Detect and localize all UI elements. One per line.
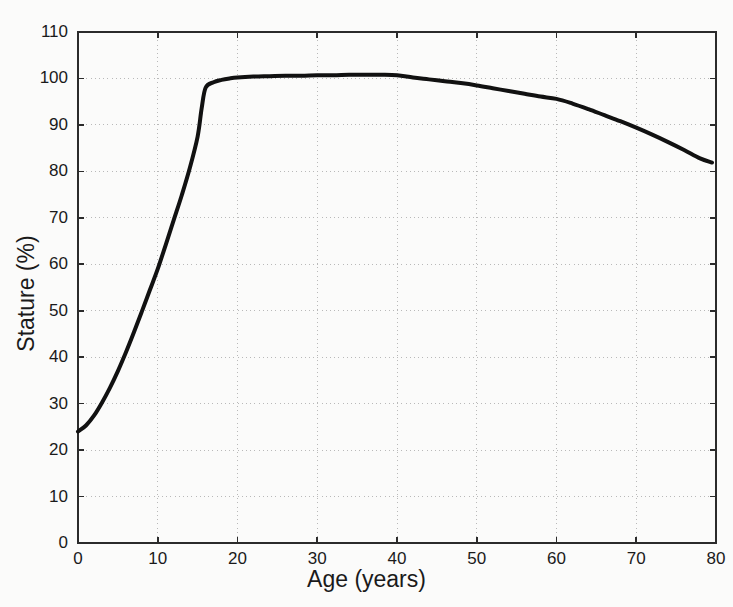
axes-frame — [78, 32, 716, 543]
tick-marks-group — [78, 32, 716, 543]
y-axis-title: Stature (%) — [13, 164, 40, 424]
gridlines-group — [78, 32, 716, 543]
y-tick-label: 10 — [0, 487, 68, 507]
figure-page: 0102030405060708090100110 01020304050607… — [0, 0, 733, 607]
x-axis-title: Age (years) — [0, 566, 733, 593]
plot-canvas — [0, 0, 733, 607]
y-tick-label: 0 — [0, 533, 68, 553]
data-series-group — [78, 75, 712, 432]
y-tick-label: 90 — [0, 115, 68, 135]
chart-figure: 0102030405060708090100110 01020304050607… — [0, 0, 733, 607]
series-line-0 — [78, 75, 712, 432]
y-tick-label: 20 — [0, 440, 68, 460]
y-tick-label: 110 — [0, 22, 68, 42]
y-tick-label: 100 — [0, 68, 68, 88]
